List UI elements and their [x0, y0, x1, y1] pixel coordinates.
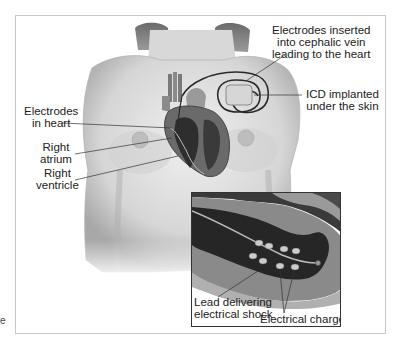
nipple-left: [132, 132, 148, 148]
label-line: Right: [40, 141, 72, 153]
inset-ventricle-detail: Lead delivering electrical shock Electri…: [191, 192, 341, 327]
label-line: Lead delivering: [194, 296, 273, 308]
label-line: atrium: [40, 153, 72, 165]
icd-device: [226, 85, 252, 105]
label-right-ventricle: Right ventricle: [36, 167, 79, 191]
stray-text-fragment: e: [0, 315, 6, 326]
label-line: ventricle: [36, 179, 79, 191]
label-icd: ICD implanted under the skin: [306, 88, 379, 112]
label-line: in heart: [24, 117, 78, 129]
label-line: leading to the heart: [272, 48, 370, 60]
label-right-atrium: Right atrium: [40, 141, 72, 165]
label-line: Electrodes: [24, 105, 78, 117]
label-line: into cephalic vein: [272, 36, 370, 48]
label-electrodes-vein: Electrodes inserted into cephalic vein l…: [272, 24, 370, 60]
label-electrodes-heart: Electrodes in heart: [24, 105, 78, 129]
label-electrical-charge: Electrical charge: [260, 313, 341, 325]
label-line: Right: [36, 167, 79, 179]
label-line: ICD implanted: [306, 88, 379, 100]
label-line: Electrodes inserted: [272, 24, 370, 36]
label-line: under the skin: [306, 100, 379, 112]
nipple-right: [238, 130, 254, 146]
